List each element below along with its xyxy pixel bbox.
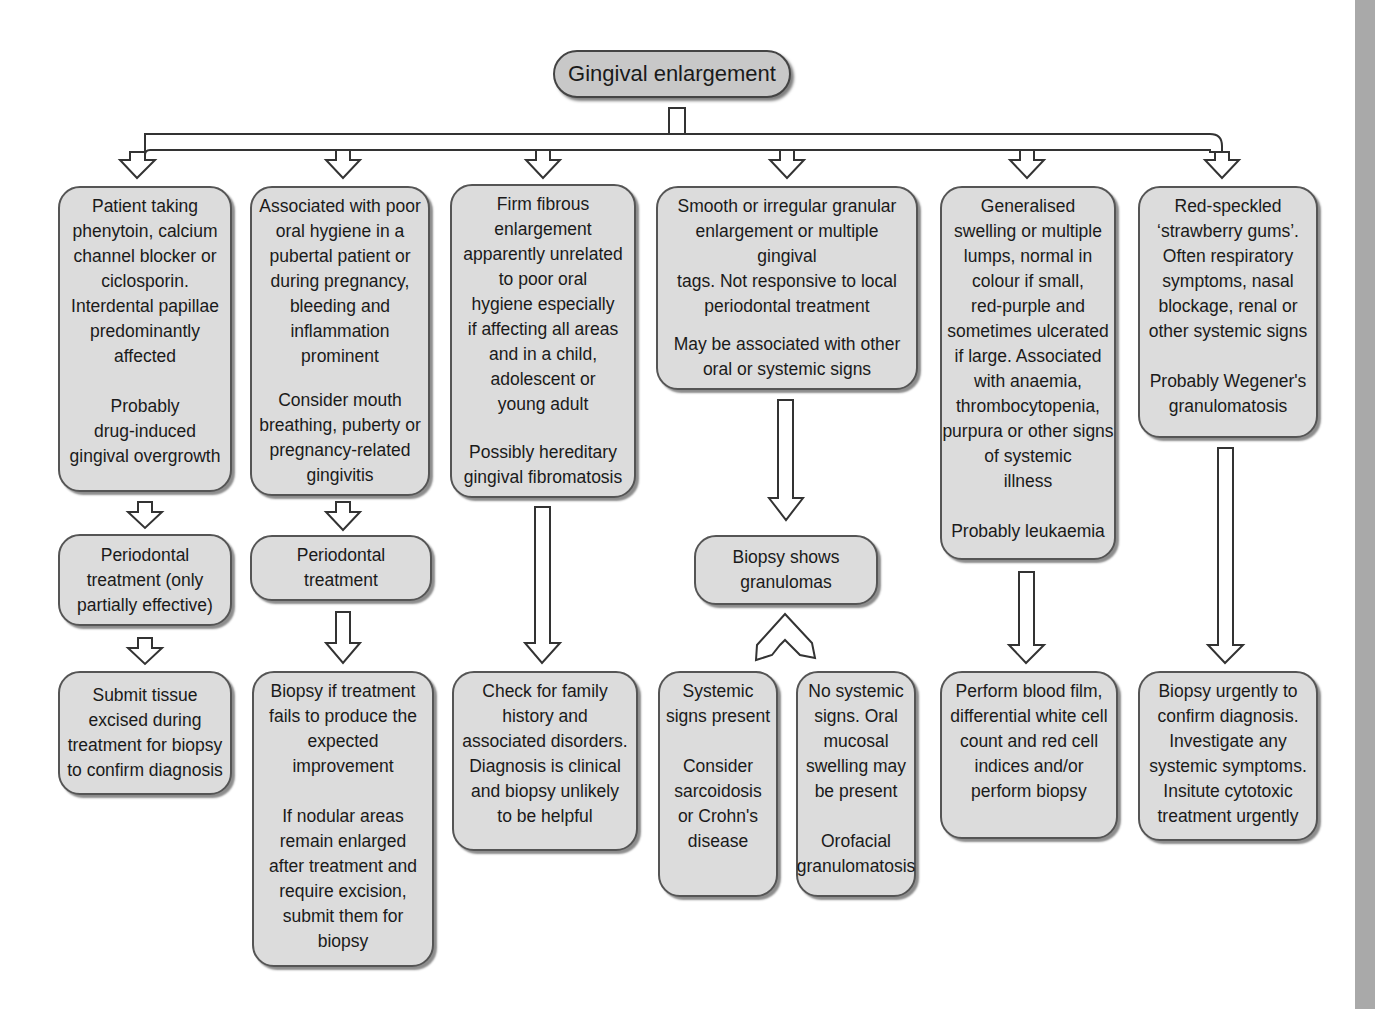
root-node: Gingival enlargement — [553, 50, 791, 98]
box-text: Perform blood film, differential white c… — [950, 679, 1107, 804]
box-submit-tissue: Submit tissue excised during treatment f… — [58, 671, 232, 795]
box-description: Firm fibrous enlargement apparently unre… — [463, 192, 623, 417]
root-title: Gingival enlargement — [568, 61, 776, 87]
box-strawberry-gums: Red-speckled ‘strawberry gums’. Often re… — [1138, 186, 1318, 438]
box-blood-film: Perform blood film, differential white c… — [940, 671, 1118, 839]
arrow-col2-b — [326, 612, 360, 663]
box-biopsy-granulomas: Biopsy shows granulomas — [694, 535, 878, 605]
box-no-systemic-signs: No systemic signs. Oral mucosal swelling… — [796, 671, 916, 897]
box-granular-enlargement: Smooth or irregular granular enlargement… — [656, 186, 918, 390]
box-text-part1: No systemic signs. Oral mucosal swelling… — [806, 679, 906, 804]
down-arrow-col3 — [526, 150, 560, 178]
box-systemic-signs: Systemic signs present Consider sarcoido… — [658, 671, 778, 897]
box-conclusion: May be associated with other oral or sys… — [674, 332, 901, 382]
box-text-part1: Systemic signs present — [666, 679, 770, 729]
box-text-part2: Consider sarcoidosis or Crohn's disease — [674, 754, 762, 854]
box-text-part2: Orofacial granulomatosis — [797, 829, 916, 879]
horizontal-bus — [145, 134, 1222, 155]
box-biopsy-if-fails: Biopsy if treatment fails to produce the… — [252, 671, 434, 967]
box-description: Smooth or irregular granular enlargement… — [664, 194, 910, 319]
box-text: Check for family history and associated … — [462, 679, 627, 829]
box-description: Patient taking phenytoin, calcium channe… — [71, 194, 219, 369]
box-text: Periodontal treatment — [297, 543, 386, 593]
box-text-part2: If nodular areas remain enlarged after t… — [269, 804, 417, 954]
box-text: Periodontal treatment (only partially ef… — [77, 543, 213, 618]
box-text: Biopsy urgently to confirm diagnosis. In… — [1149, 679, 1307, 829]
box-conclusion: Possibly hereditary gingival fibromatosi… — [464, 440, 623, 490]
box-text: Biopsy shows granulomas — [733, 545, 840, 595]
arrow-col4 — [769, 400, 803, 520]
split-arrow — [756, 614, 815, 660]
box-drug-induced: Patient taking phenytoin, calcium channe… — [58, 186, 232, 492]
down-arrow-col6 — [1205, 152, 1239, 178]
box-poor-hygiene: Associated with poor oral hygiene in a p… — [250, 186, 430, 496]
arrow-col1-b — [128, 638, 162, 664]
box-description: Generalised swelling or multiple lumps, … — [942, 194, 1113, 494]
down-arrow-col4 — [770, 150, 804, 178]
arrow-col5 — [1009, 572, 1044, 663]
root-stem — [669, 108, 685, 134]
down-arrow-col5 — [1010, 150, 1044, 178]
box-periodontal-treatment: Periodontal treatment — [250, 535, 432, 601]
arrow-col3 — [525, 507, 560, 663]
box-description: Associated with poor oral hygiene in a p… — [259, 194, 420, 369]
box-generalised-swelling: Generalised swelling or multiple lumps, … — [940, 186, 1116, 560]
arrow-col1-a — [128, 502, 162, 528]
box-conclusion: Probably Wegener's granulomatosis — [1150, 369, 1307, 419]
box-text-part1: Biopsy if treatment fails to produce the… — [269, 679, 417, 779]
down-arrow-col2 — [326, 150, 360, 178]
box-family-history: Check for family history and associated … — [452, 671, 638, 851]
box-conclusion: Probably drug-induced gingival overgrowt… — [70, 394, 221, 469]
arrow-col2-a — [326, 502, 360, 530]
box-conclusion: Consider mouth breathing, puberty or pre… — [259, 388, 421, 488]
down-arrow-col1 — [120, 152, 155, 178]
box-periodontal-partial: Periodontal treatment (only partially ef… — [58, 534, 232, 626]
box-firm-fibrous: Firm fibrous enlargement apparently unre… — [450, 184, 636, 498]
arrow-col6 — [1208, 448, 1243, 663]
box-description: Red-speckled ‘strawberry gums’. Often re… — [1149, 194, 1308, 344]
box-biopsy-urgently: Biopsy urgently to confirm diagnosis. In… — [1138, 671, 1318, 841]
box-text: Submit tissue excised during treatment f… — [67, 683, 223, 783]
box-conclusion: Probably leukaemia — [951, 519, 1105, 544]
